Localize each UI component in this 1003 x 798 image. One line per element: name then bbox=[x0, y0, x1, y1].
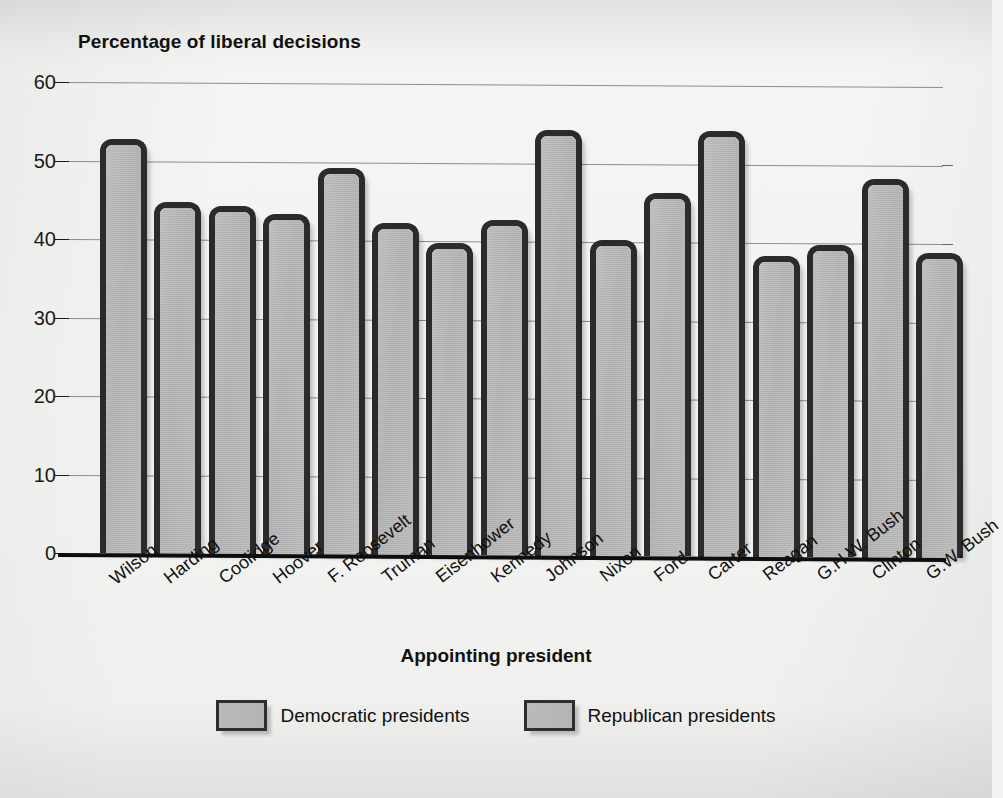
legend-item-republican[interactable]: Republican presidents bbox=[524, 700, 776, 731]
gridline bbox=[68, 82, 943, 88]
bar-fill bbox=[215, 212, 250, 554]
bar-fill bbox=[813, 251, 848, 557]
right-edge-tick-mark bbox=[942, 165, 953, 166]
bar-fill bbox=[650, 199, 685, 556]
bar-ford[interactable] bbox=[644, 193, 691, 556]
y-axis-tick-label: 40 bbox=[34, 228, 56, 251]
bar-coolidge[interactable] bbox=[209, 206, 256, 554]
plot-area: 0102030405060 bbox=[68, 70, 943, 565]
bar-fill bbox=[704, 137, 739, 557]
y-axis-tick-mark bbox=[54, 161, 69, 162]
gridline bbox=[68, 161, 943, 167]
bar-carter[interactable] bbox=[698, 131, 745, 557]
bar-fill bbox=[487, 226, 522, 556]
bar-nixon[interactable] bbox=[590, 240, 637, 556]
y-axis-tick-mark bbox=[54, 475, 69, 476]
y-axis-tick-mark bbox=[54, 396, 69, 397]
y-axis-tick-label: 50 bbox=[34, 149, 56, 172]
bar-fill bbox=[541, 136, 576, 556]
y-axis-tick-mark bbox=[54, 239, 69, 240]
legend-label: Republican presidents bbox=[588, 705, 776, 727]
legend-label: Democratic presidents bbox=[280, 705, 469, 727]
bar-eisenhower[interactable] bbox=[426, 243, 473, 555]
legend-swatch bbox=[524, 700, 575, 731]
bar-fill bbox=[324, 174, 359, 555]
bar-fill bbox=[269, 220, 304, 554]
bar-johnson[interactable] bbox=[535, 130, 582, 556]
y-axis-tick-mark bbox=[54, 82, 69, 83]
bar-fill bbox=[922, 259, 957, 557]
bar-fill bbox=[759, 262, 794, 557]
bar-hoover[interactable] bbox=[263, 214, 310, 554]
bar-fill bbox=[106, 145, 141, 553]
y-axis-tick-mark bbox=[54, 318, 69, 319]
bar-harding[interactable] bbox=[154, 202, 201, 554]
bar-fill bbox=[868, 185, 903, 558]
bar-f-roosevelt[interactable] bbox=[318, 168, 365, 555]
y-axis-tick-label: 30 bbox=[34, 306, 56, 329]
bar-clinton[interactable] bbox=[862, 179, 909, 558]
right-edge-tick-mark bbox=[942, 244, 953, 245]
bar-truman[interactable] bbox=[372, 223, 419, 555]
legend-item-democratic[interactable]: Democratic presidents bbox=[216, 700, 469, 731]
bar-fill bbox=[596, 246, 631, 556]
y-axis-tick-label: 60 bbox=[34, 71, 56, 94]
bar-g-w-bush[interactable] bbox=[916, 253, 963, 557]
y-axis-tick-label: 20 bbox=[34, 385, 56, 408]
bar-reagan[interactable] bbox=[753, 256, 800, 557]
y-axis-tick-label: 10 bbox=[34, 463, 56, 486]
bar-g-h-w-bush[interactable] bbox=[807, 245, 854, 557]
bar-fill bbox=[378, 229, 413, 555]
bar-fill bbox=[160, 208, 195, 554]
bar-fill bbox=[432, 249, 467, 555]
legend-swatch bbox=[216, 700, 267, 731]
bar-wilson[interactable] bbox=[100, 139, 147, 553]
y-axis-title: Percentage of liberal decisions bbox=[78, 31, 361, 53]
bar-kennedy[interactable] bbox=[481, 220, 528, 556]
chart-legend: Democratic presidentsRepublican presiden… bbox=[0, 700, 992, 731]
x-axis-title: Appointing president bbox=[0, 645, 992, 667]
